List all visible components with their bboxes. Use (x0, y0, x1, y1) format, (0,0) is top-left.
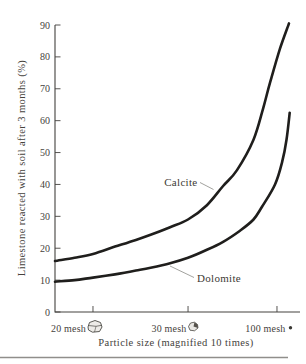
calcite-curve-label: Calcite (164, 176, 197, 188)
calcite-curve (55, 23, 289, 261)
y-tick-label: 10 (40, 275, 50, 286)
medium-particle-icon (189, 322, 199, 331)
large-particle-icon (88, 321, 102, 333)
calcite-leader-line (200, 183, 214, 190)
axes-lines (55, 25, 300, 312)
y-axis-title: Limestone reacted with soil after 3 mont… (16, 60, 28, 276)
y-tick-label: 50 (40, 147, 50, 158)
dolomite-curve-label: Dolomite (197, 272, 241, 284)
x-axis-title: Particle size (magnified 10 times) (98, 337, 253, 349)
y-axis-ticks: 0102030405060708090 (40, 20, 61, 318)
x-tick-label-100-mesh: 100 mesh (245, 323, 285, 334)
y-tick-label: 20 (40, 243, 50, 254)
y-tick-label: 30 (40, 211, 50, 222)
y-tick-label: 0 (45, 307, 50, 318)
x-tick-label-20-mesh: 20 mesh (51, 323, 86, 334)
y-tick-label: 90 (40, 20, 50, 31)
y-tick-label: 40 (40, 179, 50, 190)
limestone-reaction-chart: 0102030405060708090 Calcite Dolomite 20 … (0, 0, 306, 364)
y-tick-label: 60 (40, 115, 50, 126)
dolomite-leader-line (170, 266, 194, 278)
y-tick-label: 70 (40, 83, 50, 94)
y-tick-label: 80 (40, 51, 50, 62)
x-tick-label-30-mesh: 30 mesh (151, 323, 186, 334)
tiny-particle-dot-icon (289, 326, 292, 329)
x-axis-ticks (93, 306, 277, 312)
